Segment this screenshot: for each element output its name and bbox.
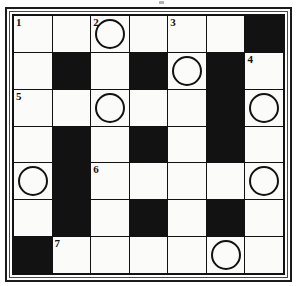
grid-cell[interactable] xyxy=(245,127,283,163)
grid-cell-block xyxy=(53,163,91,199)
grid-cell-block xyxy=(14,237,52,273)
grid-cell[interactable] xyxy=(14,127,52,163)
grid-cell-block xyxy=(130,53,168,89)
grid-cell[interactable]: 6 xyxy=(91,163,129,199)
cell-circle-marker xyxy=(18,166,48,196)
grid-cell[interactable] xyxy=(207,16,245,52)
grid-cell[interactable] xyxy=(168,163,206,199)
grid-cell-block xyxy=(130,127,168,163)
grid-cell[interactable] xyxy=(53,90,91,126)
cell-circle-marker xyxy=(172,56,202,86)
grid-cell[interactable]: 5 xyxy=(14,90,52,126)
grid-cell-block xyxy=(53,200,91,236)
grid-cell[interactable]: 4 xyxy=(245,53,283,89)
grid-cell[interactable]: 3 xyxy=(168,16,206,52)
grid-cell[interactable] xyxy=(91,90,129,126)
grid-cell[interactable] xyxy=(14,53,52,89)
grid-cell[interactable] xyxy=(168,200,206,236)
grid-cell[interactable]: 1 xyxy=(14,16,52,52)
cell-circle-marker xyxy=(95,19,125,49)
cell-circle-marker xyxy=(95,93,125,123)
grid-cell[interactable] xyxy=(168,237,206,273)
grid-cell[interactable] xyxy=(245,200,283,236)
grid-cell-block xyxy=(207,127,245,163)
crossword-grid-border: 1234567 xyxy=(12,14,285,275)
grid-cell[interactable] xyxy=(53,16,91,52)
grid-cell[interactable] xyxy=(91,127,129,163)
grid-cell[interactable] xyxy=(245,237,283,273)
grid-cell[interactable] xyxy=(130,16,168,52)
grid-cell-block xyxy=(53,127,91,163)
grid-cell[interactable] xyxy=(245,163,283,199)
grid-cell[interactable] xyxy=(130,90,168,126)
grid-cell[interactable] xyxy=(91,237,129,273)
grid-cell[interactable] xyxy=(130,237,168,273)
grid-cell[interactable] xyxy=(14,200,52,236)
grid-cell[interactable] xyxy=(91,53,129,89)
grid-cell[interactable]: 7 xyxy=(53,237,91,273)
grid-cell[interactable] xyxy=(130,163,168,199)
cell-number: 3 xyxy=(170,16,175,28)
grid-cell[interactable] xyxy=(168,53,206,89)
cell-circle-marker xyxy=(211,240,241,270)
cell-number: 1 xyxy=(16,16,21,28)
cell-number: 6 xyxy=(93,163,98,175)
grid-cell[interactable] xyxy=(207,237,245,273)
grid-cell[interactable] xyxy=(168,127,206,163)
grid-cell-block xyxy=(245,16,283,52)
grid-cell-block xyxy=(207,90,245,126)
cell-number: 7 xyxy=(55,237,60,249)
grid-cell-block xyxy=(207,200,245,236)
grid-cell[interactable]: 2 xyxy=(91,16,129,52)
cell-number: 2 xyxy=(93,16,98,28)
grid-cell[interactable] xyxy=(168,90,206,126)
grid-cell[interactable] xyxy=(14,163,52,199)
grid-cell[interactable] xyxy=(91,200,129,236)
grid-cell[interactable] xyxy=(207,163,245,199)
cell-circle-marker xyxy=(249,93,279,123)
grid-cell[interactable] xyxy=(245,90,283,126)
cell-circle-marker xyxy=(249,166,279,196)
cell-number: 4 xyxy=(247,53,252,65)
crossword-page: 1234567 xyxy=(0,0,297,286)
cell-number: 5 xyxy=(16,90,21,102)
grid-cell-block xyxy=(130,200,168,236)
page-artifact-mark xyxy=(159,1,164,4)
grid-cell-block xyxy=(53,53,91,89)
grid-cell-block xyxy=(207,53,245,89)
crossword-grid[interactable]: 1234567 xyxy=(14,16,283,273)
